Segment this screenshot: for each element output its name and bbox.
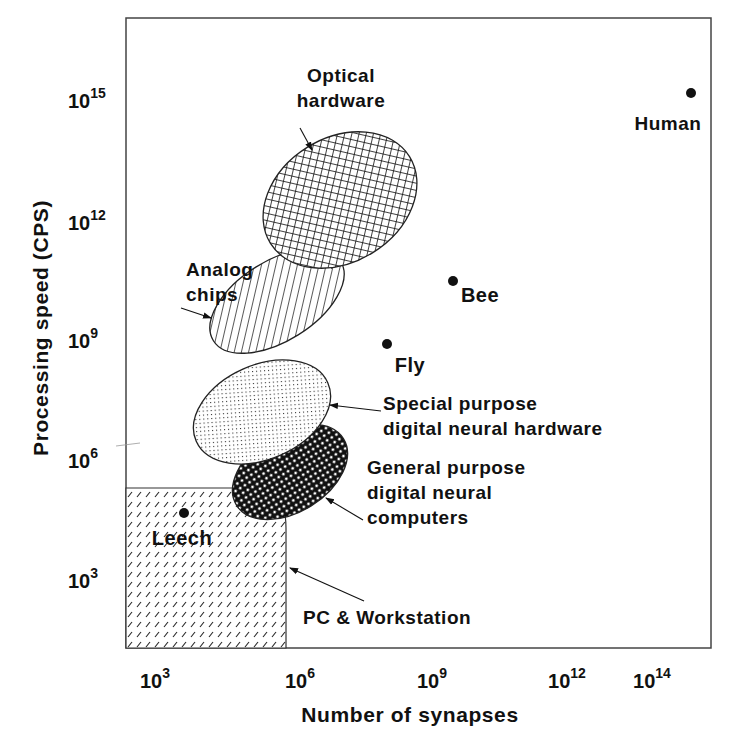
data-point-marker (686, 88, 696, 98)
label-line: digital neural (367, 482, 492, 503)
label-general-purpose-digital-neural-computers: General purposedigital neuralcomputers (367, 457, 526, 528)
label-line: Optical (307, 65, 375, 86)
point-label: Human (635, 113, 702, 134)
y-axis-ticks: 10151012109106103 (68, 85, 106, 592)
data-point-marker (448, 276, 458, 286)
label-line: chips (186, 284, 238, 305)
x-tick-label: 1014 (633, 665, 671, 692)
data-point-marker (179, 508, 189, 518)
x-tick-label: 1012 (548, 665, 586, 692)
point-label: Leech (152, 527, 212, 549)
label-line: PC & Workstation (303, 607, 471, 628)
label-line: computers (367, 507, 469, 528)
label-pc-workstation: PC & Workstation (303, 607, 471, 628)
chart: HumanBeeFlyLeech OpticalhardwareAnalogch… (0, 0, 732, 738)
x-axis-ticks: 10310610910121014 (140, 665, 671, 692)
arrow-analog-chips (181, 308, 211, 318)
y-tick-label: 109 (68, 325, 98, 352)
point-human: Human (635, 88, 702, 134)
point-fly: Fly (382, 339, 426, 376)
x-tick-label: 106 (285, 665, 315, 692)
arrow-pc-workstation (290, 568, 364, 601)
point-bee: Bee (448, 276, 499, 306)
arrow-special-purpose-digital-neural-hardware (330, 405, 381, 411)
arrow-general-purpose-digital-neural-computers (326, 498, 363, 520)
y-axis-title: Processing speed (CPS) (29, 200, 52, 456)
y-tick-label: 1015 (68, 85, 106, 112)
y-tick-label: 1012 (68, 207, 106, 234)
label-line: Analog (186, 259, 253, 280)
label-optical-hardware: Opticalhardware (297, 65, 385, 111)
arrow-optical-hardware (300, 128, 312, 150)
x-axis-title: Number of synapses (301, 703, 518, 726)
label-line: digital neural hardware (383, 418, 603, 439)
data-point-marker (382, 339, 392, 349)
label-line: hardware (297, 90, 385, 111)
x-tick-label: 103 (140, 665, 170, 692)
stray-tick-mark (116, 443, 140, 446)
point-label: Bee (461, 284, 499, 306)
y-tick-label: 103 (68, 565, 98, 592)
label-line: Special purpose (383, 393, 537, 414)
point-label: Fly (395, 354, 426, 376)
x-tick-label: 109 (417, 665, 447, 692)
label-special-purpose-digital-neural-hardware: Special purposedigital neural hardware (383, 393, 603, 439)
y-tick-label: 106 (68, 445, 98, 472)
label-line: General purpose (367, 457, 526, 478)
